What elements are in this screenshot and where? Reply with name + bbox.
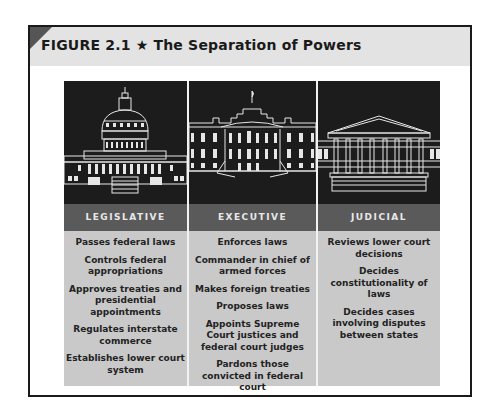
- figure-title: FIGURE 2.1★The Separation of Powers: [41, 37, 362, 53]
- figure-title-bar: FIGURE 2.1★The Separation of Powers: [30, 27, 470, 66]
- power-item: Proposes laws: [191, 301, 314, 313]
- branch-legislative: LEGISLATIVE Passes federal laws Controls…: [64, 81, 187, 386]
- figure-frame: FIGURE 2.1★The Separation of Powers: [28, 25, 472, 397]
- power-item: Passes federal laws: [66, 237, 185, 249]
- branch-powers-list: Passes federal laws Controls federal app…: [66, 237, 185, 382]
- power-item: Appoints Supreme Court justices and fede…: [191, 319, 314, 354]
- power-item: Decides constitutionality of laws: [320, 266, 438, 301]
- power-item: Commander in chief of armed forces: [191, 255, 314, 278]
- power-item: Makes foreign treaties: [191, 284, 314, 296]
- branch-header: LEGISLATIVE: [64, 204, 187, 231]
- star-icon: ★: [136, 37, 149, 53]
- branches-table: LEGISLATIVE Passes federal laws Controls…: [64, 81, 440, 386]
- white-house-icon: [189, 81, 316, 204]
- power-item: Enforces laws: [191, 237, 314, 249]
- power-item: Reviews lower court decisions: [320, 237, 438, 260]
- power-item: Decides cases involving disputes between…: [320, 307, 438, 342]
- branch-powers-list: Enforces laws Commander in chief of arme…: [191, 237, 314, 400]
- figure-title-text: The Separation of Powers: [153, 37, 361, 53]
- power-item: Regulates interstate commerce: [66, 324, 185, 347]
- supreme-court-building-icon: [318, 81, 440, 204]
- branch-header: EXECUTIVE: [189, 204, 316, 231]
- branch-powers-list: Reviews lower court decisions Decides co…: [320, 237, 438, 347]
- power-item: Pardons those convicted in federal court: [191, 359, 314, 394]
- capitol-building-icon: [64, 81, 187, 204]
- figure-label: FIGURE 2.1: [41, 37, 131, 53]
- power-item: Approves treaties and presidential appoi…: [66, 284, 185, 319]
- power-item: Establishes lower court system: [66, 353, 185, 376]
- branch-executive: EXECUTIVE Enforces laws Commander in chi…: [187, 81, 316, 386]
- power-item: Controls federal appropriations: [66, 255, 185, 278]
- branch-judicial: JUDICIAL Reviews lower court decisions D…: [316, 81, 440, 386]
- branch-header: JUDICIAL: [318, 204, 440, 231]
